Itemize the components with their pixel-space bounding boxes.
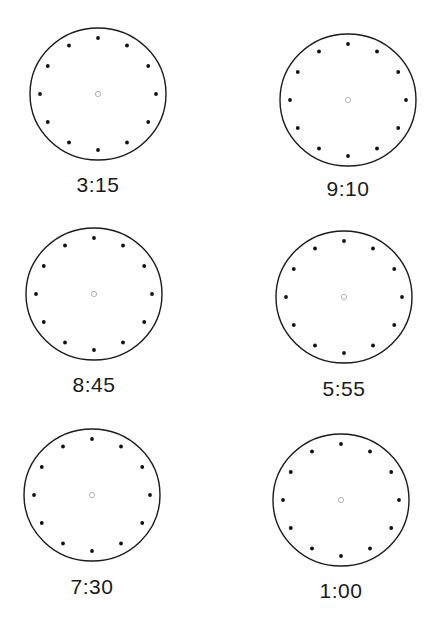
hour-marker-dot xyxy=(281,498,285,502)
hour-marker-dot xyxy=(310,450,314,454)
hour-marker-dot xyxy=(396,126,400,130)
hour-marker-dot xyxy=(346,42,350,46)
hour-marker-dot xyxy=(67,44,71,48)
hour-marker-dot xyxy=(289,470,293,474)
hour-marker-dot xyxy=(289,526,293,530)
hour-marker-dot xyxy=(371,344,375,348)
clock-time-label: 9:10 xyxy=(288,177,408,201)
hour-marker-dot xyxy=(375,50,379,54)
clock-face-icon xyxy=(22,224,166,364)
hour-marker-dot xyxy=(125,141,129,145)
hour-marker-dot xyxy=(46,64,50,68)
hour-marker-dot xyxy=(310,547,314,551)
hour-marker-dot xyxy=(38,92,42,96)
hour-marker-dot xyxy=(296,126,300,130)
center-pivot xyxy=(345,97,350,102)
hour-marker-dot xyxy=(140,521,144,525)
hour-marker-dot xyxy=(142,320,146,324)
clock-time-label: 7:30 xyxy=(32,575,152,599)
hour-marker-dot xyxy=(142,264,146,268)
clock-face-icon xyxy=(269,430,413,570)
clock-time-label: 3:15 xyxy=(38,173,158,197)
clock-outline xyxy=(24,429,160,561)
clock-face-icon xyxy=(20,425,164,565)
hour-marker-dot xyxy=(389,526,393,530)
hour-marker-dot xyxy=(67,141,71,145)
hour-marker-dot xyxy=(317,50,321,54)
center-pivot xyxy=(89,492,94,497)
hour-marker-dot xyxy=(296,70,300,74)
hour-marker-dot xyxy=(90,549,94,553)
clock-face: 1:00 xyxy=(269,430,413,570)
hour-marker-dot xyxy=(292,323,296,327)
hour-marker-dot xyxy=(392,323,396,327)
hour-marker-dot xyxy=(119,542,123,546)
clock-outline xyxy=(273,434,409,566)
hour-marker-dot xyxy=(288,98,292,102)
clock-face: 7:30 xyxy=(20,425,164,565)
hour-marker-dot xyxy=(342,351,346,355)
clock-outline xyxy=(276,231,412,363)
hour-marker-dot xyxy=(92,348,96,352)
clock-time-label: 8:45 xyxy=(34,373,154,397)
hour-marker-dot xyxy=(154,92,158,96)
hour-marker-dot xyxy=(317,147,321,151)
hour-marker-dot xyxy=(42,320,46,324)
clock-face: 3:15 xyxy=(26,24,170,164)
hour-marker-dot xyxy=(34,292,38,296)
hour-marker-dot xyxy=(40,521,44,525)
hour-marker-dot xyxy=(42,264,46,268)
hour-marker-dot xyxy=(61,445,65,449)
hour-marker-dot xyxy=(368,450,372,454)
hour-marker-dot xyxy=(313,344,317,348)
hour-marker-dot xyxy=(396,70,400,74)
center-pivot xyxy=(95,91,100,96)
hour-marker-dot xyxy=(375,147,379,151)
hour-marker-dot xyxy=(121,341,125,345)
clock-face: 9:10 xyxy=(276,30,420,170)
hour-marker-dot xyxy=(121,244,125,248)
clock-time-label: 5:55 xyxy=(284,377,404,401)
hour-marker-dot xyxy=(63,244,67,248)
hour-marker-dot xyxy=(32,493,36,497)
hour-marker-dot xyxy=(346,154,350,158)
center-pivot xyxy=(338,497,343,502)
hour-marker-dot xyxy=(339,442,343,446)
hour-marker-dot xyxy=(339,554,343,558)
clock-face-icon xyxy=(276,30,420,170)
hour-marker-dot xyxy=(40,465,44,469)
center-pivot xyxy=(91,291,96,296)
clock-outline xyxy=(26,228,162,360)
clock-face-icon xyxy=(26,24,170,164)
hour-marker-dot xyxy=(146,120,150,124)
hour-marker-dot xyxy=(61,542,65,546)
hour-marker-dot xyxy=(96,36,100,40)
hour-marker-dot xyxy=(292,267,296,271)
hour-marker-dot xyxy=(63,341,67,345)
hour-marker-dot xyxy=(313,247,317,251)
hour-marker-dot xyxy=(46,120,50,124)
hour-marker-dot xyxy=(125,44,129,48)
clock-face: 5:55 xyxy=(272,227,416,367)
center-pivot xyxy=(341,294,346,299)
hour-marker-dot xyxy=(392,267,396,271)
hour-marker-dot xyxy=(342,239,346,243)
clock-face: 8:45 xyxy=(22,224,166,364)
hour-marker-dot xyxy=(404,98,408,102)
hour-marker-dot xyxy=(96,148,100,152)
hour-marker-dot xyxy=(371,247,375,251)
hour-marker-dot xyxy=(368,547,372,551)
clock-outline xyxy=(280,34,416,166)
clock-face-icon xyxy=(272,227,416,367)
hour-marker-dot xyxy=(90,437,94,441)
clock-outline xyxy=(30,28,166,160)
hour-marker-dot xyxy=(140,465,144,469)
hour-marker-dot xyxy=(92,236,96,240)
hour-marker-dot xyxy=(284,295,288,299)
hour-marker-dot xyxy=(150,292,154,296)
hour-marker-dot xyxy=(400,295,404,299)
hour-marker-dot xyxy=(119,445,123,449)
hour-marker-dot xyxy=(146,64,150,68)
hour-marker-dot xyxy=(389,470,393,474)
hour-marker-dot xyxy=(397,498,401,502)
